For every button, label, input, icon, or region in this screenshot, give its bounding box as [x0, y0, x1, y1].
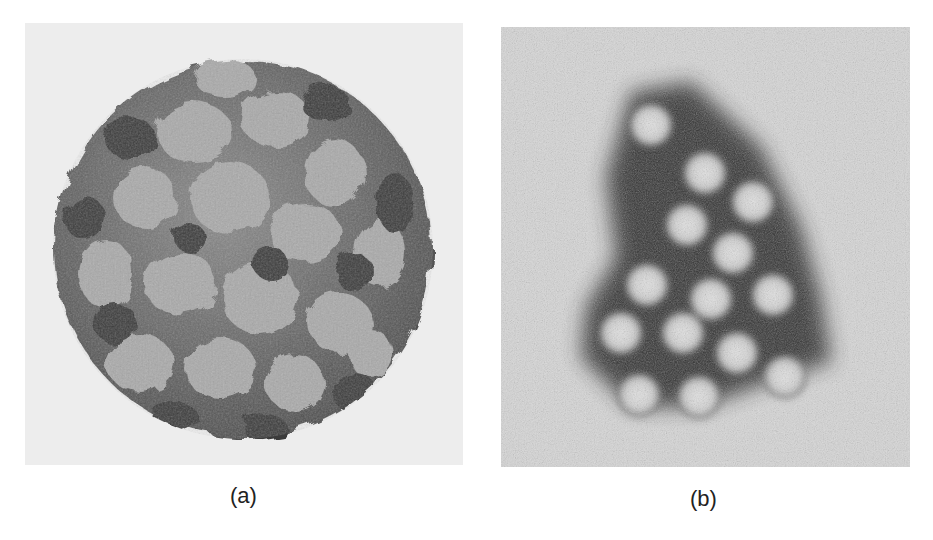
micrograph-illustration [501, 27, 910, 467]
caption-b: (b) [690, 486, 717, 512]
panel-b-electron-micrograph [501, 27, 910, 467]
panel-a-capsid-rendering [25, 23, 463, 465]
caption-a: (a) [230, 483, 257, 509]
capsid-illustration [25, 23, 463, 465]
